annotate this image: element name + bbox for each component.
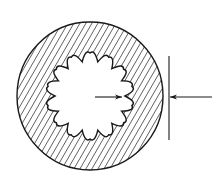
page-background xyxy=(0,0,212,185)
cross-section-figure xyxy=(0,0,212,185)
drawing-canvas xyxy=(0,0,212,185)
